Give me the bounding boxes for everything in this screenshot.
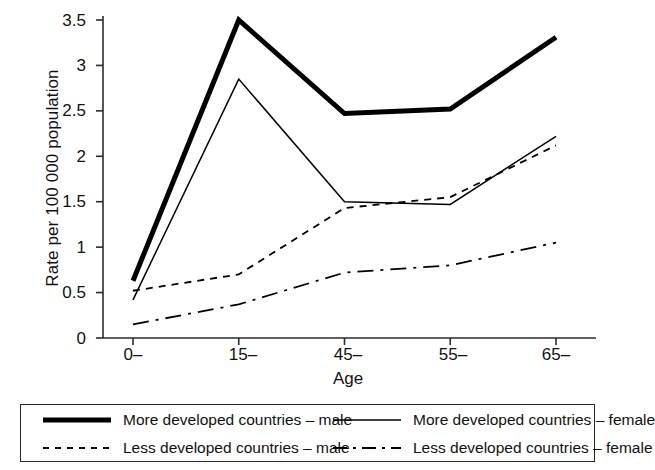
legend-entry-less-developed-female: Less developed countries – female <box>331 439 596 457</box>
x-tick-marks <box>133 338 556 345</box>
legend-row: Less developed countries – male Less dev… <box>21 433 594 462</box>
legend-entry-less-developed-male: Less developed countries – male <box>21 439 331 457</box>
series-line <box>133 243 556 325</box>
legend-swatch-dash-dot-icon <box>331 441 403 455</box>
series-line <box>133 20 556 281</box>
legend-entry-more-developed-female: More developed countries – female <box>331 411 596 429</box>
plot-area: Rate per 100 000 population 3.5 3 2.5 2 … <box>0 0 616 392</box>
y-tick-marks <box>96 20 103 338</box>
legend-label: More developed countries – female <box>413 411 655 429</box>
legend-entry-more-developed-male: More developed countries – male <box>21 411 331 429</box>
legend-label: More developed countries – male <box>123 411 352 429</box>
series-lines <box>133 20 556 324</box>
legend-swatch-dashed-icon <box>41 441 113 455</box>
legend-row: More developed countries – male More dev… <box>21 405 594 434</box>
plot-svg <box>0 0 616 392</box>
legend-label: Less developed countries – female <box>413 439 653 457</box>
legend-label: Less developed countries – male <box>123 439 350 457</box>
legend-swatch-solid-thick-icon <box>41 413 113 427</box>
chart-legend: More developed countries – male More dev… <box>20 404 595 462</box>
legend-swatch-solid-thin-icon <box>331 413 403 427</box>
